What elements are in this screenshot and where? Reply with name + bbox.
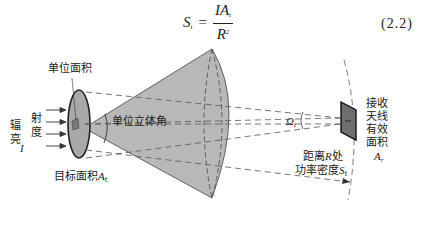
radiance-char-3: 射 [31,112,42,125]
target-area-label: 目标面积At [54,170,108,187]
radiance-symbol: I [20,142,24,155]
distance-label: 距离R处 [303,150,343,163]
omega-label: Ωt [286,115,296,132]
receiver-label-line1: 接收 [366,97,388,110]
receiver-label-line3: 有效 [366,123,388,136]
receiver-label-line4: 面积 [366,136,388,149]
radiance-char-4: 度 [31,126,42,139]
unit-solid-angle-label: 单位立体角 [112,115,167,128]
power-density-label: 功率密度St [295,164,347,181]
unit-area-label: 单位面积 [48,62,92,75]
omega-arc [301,112,303,129]
radiance-char-1: 辐 [10,119,21,132]
receiver-symbol: Ar [374,150,383,167]
radiance-arrows [46,108,66,149]
receiver-label-line2: 天线 [366,110,388,123]
